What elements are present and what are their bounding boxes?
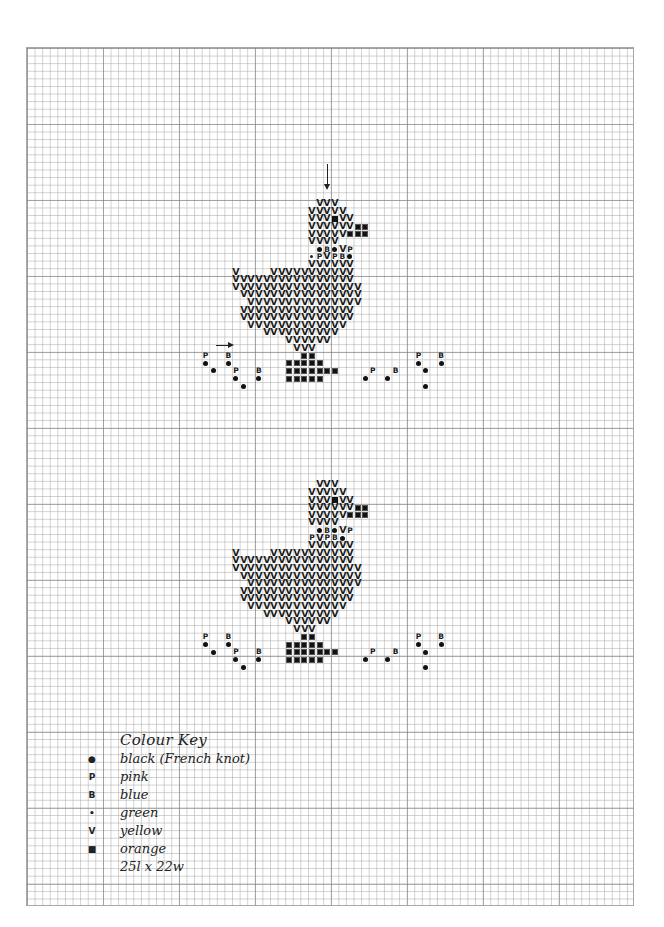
orange-stitch-icon xyxy=(301,641,309,649)
center-arrow-right-icon xyxy=(216,345,232,346)
key-label: black (French knot) xyxy=(120,751,250,766)
orange-stitch-icon xyxy=(301,352,309,360)
orange-stitch-icon xyxy=(316,641,324,649)
french-knot-icon xyxy=(225,360,233,368)
yellow-stitch-icon: V xyxy=(346,314,354,322)
yellow-stitch-icon: V xyxy=(232,565,240,573)
key-row-size: 25l x 22w xyxy=(88,859,348,876)
blue-stitch-icon: B xyxy=(255,367,263,375)
pink-stitch-icon: P xyxy=(346,527,354,535)
yellow-stitch-icon: V xyxy=(338,230,346,238)
pink-stitch-icon: P xyxy=(415,633,423,641)
french-knot-icon xyxy=(422,664,430,672)
blue-stitch-icon: B xyxy=(225,352,233,360)
orange-stitch-icon xyxy=(354,230,362,238)
french-knot-icon xyxy=(202,641,210,649)
french-knot-icon xyxy=(384,656,392,664)
yellow-stitch-icon: V xyxy=(323,337,331,345)
blue-stitch-icon: B xyxy=(392,367,400,375)
orange-stitch-icon xyxy=(361,230,369,238)
pink-stitch-icon: P xyxy=(369,648,377,656)
yellow-v-icon: V xyxy=(88,825,96,837)
pink-stitch-icon: P xyxy=(346,246,354,254)
yellow-stitch-icon: V xyxy=(338,603,346,611)
yellow-stitch-icon: V xyxy=(323,618,331,626)
yellow-stitch-icon: V xyxy=(331,238,339,246)
orange-stitch-icon xyxy=(361,504,369,512)
orange-stitch-icon xyxy=(293,641,301,649)
yellow-stitch-icon: V xyxy=(331,329,339,337)
yellow-stitch-icon: V xyxy=(331,208,339,216)
orange-stitch-icon xyxy=(301,375,309,383)
yellow-stitch-icon: V xyxy=(308,238,316,246)
orange-stitch-icon xyxy=(293,367,301,375)
yellow-stitch-icon: V xyxy=(308,344,316,352)
french-knot-icon xyxy=(422,382,430,390)
yellow-stitch-icon: V xyxy=(255,603,263,611)
orange-stitch-icon xyxy=(354,223,362,231)
orange-stitch-icon xyxy=(308,633,316,641)
orange-stitch-icon xyxy=(331,648,339,656)
french-knot-icon xyxy=(209,648,217,656)
orange-stitch-icon xyxy=(285,648,293,656)
key-row-yellow: V yellow xyxy=(88,823,348,840)
orange-stitch-icon xyxy=(293,656,301,664)
yellow-stitch-icon: V xyxy=(308,519,316,527)
yellow-stitch-icon: V xyxy=(346,595,354,603)
french-knot-icon xyxy=(232,656,240,664)
pink-stitch-icon: P xyxy=(202,633,210,641)
yellow-stitch-icon: V xyxy=(331,519,339,527)
design-size-note: 25l x 22w xyxy=(120,859,184,874)
orange-stitch-icon xyxy=(308,352,316,360)
orange-stitch-icon xyxy=(354,512,362,520)
key-row-pink: P pink xyxy=(88,769,348,786)
orange-stitch-icon xyxy=(361,512,369,520)
yellow-stitch-icon: V xyxy=(354,299,362,307)
orange-stitch-icon xyxy=(316,648,324,656)
french-knot-icon xyxy=(422,367,430,375)
orange-stitch-icon xyxy=(285,375,293,383)
orange-stitch-icon xyxy=(301,360,309,368)
yellow-stitch-icon: V xyxy=(308,626,316,634)
yellow-stitch-icon: V xyxy=(293,344,301,352)
center-arrow-down-icon xyxy=(327,164,328,188)
yellow-stitch-icon: V xyxy=(331,489,339,497)
pink-stitch-icon: P xyxy=(202,352,210,360)
yellow-stitch-icon: V xyxy=(232,284,240,292)
orange-stitch-icon xyxy=(293,360,301,368)
yellow-stitch-icon: V xyxy=(331,610,339,618)
orange-stitch-icon xyxy=(285,656,293,664)
french-knot-icon xyxy=(225,641,233,649)
french-knot-icon xyxy=(361,656,369,664)
french-knot-icon xyxy=(415,360,423,368)
pink-stitch-icon: P xyxy=(369,367,377,375)
blue-b-icon: B xyxy=(88,789,96,801)
french-knot-icon xyxy=(202,360,210,368)
french-knot-icon xyxy=(415,641,423,649)
orange-stitch-icon xyxy=(308,367,316,375)
orange-stitch-icon xyxy=(331,367,339,375)
orange-stitch-icon xyxy=(301,648,309,656)
french-knot-icon xyxy=(361,375,369,383)
orange-stitch-icon xyxy=(285,367,293,375)
key-label: orange xyxy=(120,841,166,856)
yellow-stitch-icon: V xyxy=(338,322,346,330)
orange-stitch-icon xyxy=(316,656,324,664)
key-row-green: • green xyxy=(88,805,348,822)
colour-key-title: Colour Key xyxy=(120,731,207,749)
yellow-stitch-icon: V xyxy=(338,512,346,520)
key-label: green xyxy=(120,805,158,820)
french-knot-icon: ● xyxy=(88,753,96,765)
yellow-stitch-icon: V xyxy=(338,527,346,535)
orange-stitch-icon xyxy=(293,648,301,656)
key-label: yellow xyxy=(120,823,162,838)
blue-stitch-icon: B xyxy=(437,633,445,641)
blue-stitch-icon: B xyxy=(437,352,445,360)
orange-square-icon: ■ xyxy=(88,843,96,855)
yellow-stitch-icon: V xyxy=(293,626,301,634)
orange-stitch-icon xyxy=(308,360,316,368)
yellow-stitch-icon: V xyxy=(346,504,354,512)
orange-stitch-icon xyxy=(308,375,316,383)
orange-stitch-icon xyxy=(316,375,324,383)
green-dot-icon: • xyxy=(88,807,96,819)
